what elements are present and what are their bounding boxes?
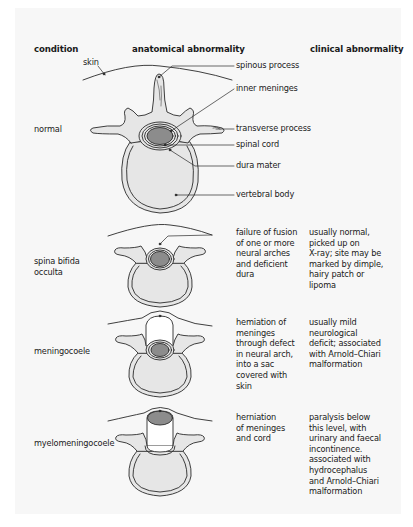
label-transverse-process: transverse process — [236, 123, 311, 134]
anatomical-myelomeningocoele: herniation of meninges and cord — [236, 412, 285, 444]
label-spinal-cord: spinal cord — [236, 139, 279, 150]
condition-myelomeningocoele: myelomeningocoele — [34, 438, 114, 449]
anatomical-meningocoele: hemiation of meninges through defect in … — [236, 317, 295, 391]
label-inner-meninges: inner meninges — [236, 83, 298, 94]
condition-spina-bifida-occulta: spina bifida occulta — [34, 256, 80, 277]
label-vertebral-body: vertebral body — [236, 189, 294, 200]
condition-normal: normal — [34, 124, 62, 135]
normal-vertebra-diagram — [83, 65, 234, 213]
myelomeningocoele-diagram — [108, 408, 212, 497]
condition-meningocoele: meningocoele — [34, 346, 90, 357]
meningocoele-diagram — [108, 311, 212, 397]
clinical-spina-bifida-occulta: usually normal, picked up on X-ray; site… — [309, 227, 383, 291]
label-spinous-process: spinous process — [236, 60, 299, 71]
label-skin: skin — [83, 57, 99, 68]
anatomical-spina-bifida-occulta: failure of fusion of one or more neural … — [236, 227, 297, 280]
label-dura-mater: dura mater — [236, 160, 280, 171]
clinical-meningocoele: usually mild neurological deficit; assoc… — [309, 317, 381, 370]
spina-bifida-occulta-diagram — [108, 224, 212, 307]
clinical-myelomeningocoele: paralysis below this level, with urinary… — [309, 412, 381, 497]
